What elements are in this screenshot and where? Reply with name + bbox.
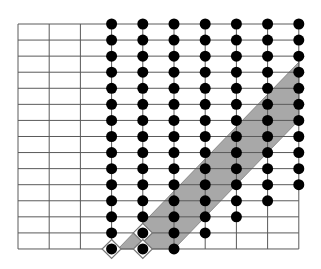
lattice-dot-icon: [106, 211, 117, 222]
lattice-dot-icon: [231, 163, 242, 174]
lattice-dot-icon: [137, 243, 148, 254]
lattice-dot-icon: [200, 51, 211, 62]
lattice-dot-icon: [106, 83, 117, 94]
lattice-dot-icon: [137, 99, 148, 110]
lattice-dot-icon: [293, 35, 304, 46]
lattice-dot-icon: [137, 83, 148, 94]
lattice-dot-icon: [293, 51, 304, 62]
lattice-dot-icon: [262, 179, 273, 190]
lattice-dot-icon: [231, 195, 242, 206]
lattice-dot-icon: [169, 163, 180, 174]
lattice-dot-icon: [293, 19, 304, 30]
lattice-dot-icon: [106, 131, 117, 142]
lattice-dot-icon: [231, 211, 242, 222]
lattice-dot-icon: [106, 243, 117, 254]
lattice-dot-icon: [231, 67, 242, 78]
lattice-diagram: [0, 0, 321, 269]
lattice-dot-icon: [200, 211, 211, 222]
lattice-dot-icon: [137, 163, 148, 174]
lattice-dot-icon: [169, 211, 180, 222]
lattice-dot-icon: [231, 83, 242, 94]
lattice-dot-icon: [231, 19, 242, 30]
lattice-dot-icon: [137, 35, 148, 46]
lattice-dot-icon: [106, 163, 117, 174]
lattice-dot-icon: [200, 131, 211, 142]
lattice-dot-icon: [262, 67, 273, 78]
lattice-dot-icon: [262, 163, 273, 174]
lattice-dot-icon: [169, 195, 180, 206]
lattice-dot-icon: [262, 131, 273, 142]
lattice-dot-icon: [169, 83, 180, 94]
lattice-dot-icon: [169, 67, 180, 78]
lattice-dot-icon: [106, 147, 117, 158]
lattice-dot-icon: [293, 163, 304, 174]
lattice-dot-icon: [169, 179, 180, 190]
lattice-dot-icon: [200, 163, 211, 174]
lattice-dot-icon: [293, 147, 304, 158]
lattice-dot-icon: [200, 227, 211, 238]
lattice-dot-icon: [231, 99, 242, 110]
lattice-dot-icon: [106, 67, 117, 78]
lattice-dot-icon: [293, 115, 304, 126]
lattice-dot-icon: [200, 115, 211, 126]
lattice-dot-icon: [262, 19, 273, 30]
lattice-dot-icon: [293, 179, 304, 190]
lattice-dot-icon: [137, 179, 148, 190]
lattice-dot-icon: [137, 115, 148, 126]
lattice-dot-icon: [231, 51, 242, 62]
lattice-dot-icon: [106, 115, 117, 126]
lattice-dot-icon: [169, 51, 180, 62]
lattice-dot-icon: [200, 99, 211, 110]
lattice-dot-icon: [106, 195, 117, 206]
lattice-dot-icon: [293, 131, 304, 142]
lattice-dot-icon: [137, 227, 148, 238]
lattice-dot-icon: [200, 195, 211, 206]
lattice-dot-icon: [231, 35, 242, 46]
lattice-dot-icon: [262, 99, 273, 110]
lattice-dot-icon: [169, 35, 180, 46]
lattice-dot-icon: [106, 35, 117, 46]
lattice-dot-icon: [169, 19, 180, 30]
lattice-dot-icon: [200, 67, 211, 78]
lattice-dot-icon: [137, 131, 148, 142]
lattice-dot-icon: [262, 147, 273, 158]
lattice-dot-icon: [231, 131, 242, 142]
lattice-dot-icon: [137, 67, 148, 78]
lattice-dot-icon: [231, 115, 242, 126]
lattice-dot-icon: [106, 179, 117, 190]
lattice-dot-icon: [137, 51, 148, 62]
lattice-dot-icon: [200, 19, 211, 30]
lattice-dot-icon: [169, 131, 180, 142]
lattice-dot-icon: [106, 19, 117, 30]
lattice-dot-icon: [200, 83, 211, 94]
lattice-dot-icon: [200, 179, 211, 190]
lattice-dot-icon: [169, 147, 180, 158]
lattice-dot-icon: [169, 243, 180, 254]
lattice-dot-icon: [231, 147, 242, 158]
lattice-dot-icon: [137, 19, 148, 30]
lattice-dot-icon: [106, 51, 117, 62]
lattice-dot-icon: [262, 195, 273, 206]
lattice-dot-icon: [200, 35, 211, 46]
lattice-dot-icon: [169, 227, 180, 238]
lattice-dot-icon: [169, 115, 180, 126]
lattice-dot-icon: [262, 35, 273, 46]
lattice-dot-icon: [137, 147, 148, 158]
diagram-canvas: [0, 0, 321, 269]
lattice-dot-icon: [200, 147, 211, 158]
lattice-dot-icon: [293, 99, 304, 110]
lattice-dot-icon: [169, 99, 180, 110]
lattice-dot-icon: [293, 67, 304, 78]
lattice-dot-icon: [262, 51, 273, 62]
lattice-dot-icon: [137, 195, 148, 206]
lattice-dot-icon: [262, 83, 273, 94]
lattice-dot-icon: [262, 115, 273, 126]
lattice-dot-icon: [293, 83, 304, 94]
lattice-dot-icon: [106, 227, 117, 238]
lattice-dot-icon: [106, 99, 117, 110]
lattice-dot-icon: [231, 179, 242, 190]
lattice-dot-icon: [137, 211, 148, 222]
